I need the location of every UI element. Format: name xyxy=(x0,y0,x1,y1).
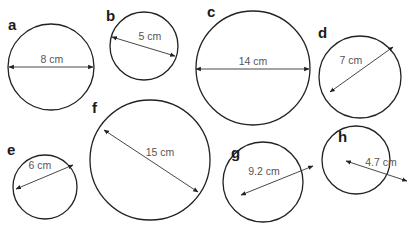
circle-label-d: d xyxy=(318,24,327,41)
diameter-measurement-c: 14 cm xyxy=(239,55,268,67)
diameter-measurement-d: 7 cm xyxy=(340,54,363,66)
diameter-measurement-h: 4.7 cm xyxy=(365,156,397,168)
diameter-measurement-e: 6 cm xyxy=(29,159,52,171)
diameter-measurement-b: 5 cm xyxy=(139,30,162,42)
circle-b xyxy=(110,12,178,80)
circle-label-e: e xyxy=(7,141,15,158)
circle-group-g: g9.2 cm xyxy=(223,142,313,222)
circle-group-a: a8 cm xyxy=(8,16,94,110)
diameter-measurement-a: 8 cm xyxy=(41,53,64,65)
circle-group-e: e6 cm xyxy=(7,141,77,219)
circle-d xyxy=(319,36,401,118)
circle-group-c: c14 cm xyxy=(196,3,310,125)
circle-label-f: f xyxy=(92,99,98,116)
circle-label-b: b xyxy=(106,7,115,24)
circle-label-c: c xyxy=(207,3,215,20)
circle-label-h: h xyxy=(338,128,347,145)
circle-group-f: f15 cm xyxy=(90,99,210,220)
circles-diagram: a8 cmb5 cmc14 cmd7 cme6 cmf15 cmg9.2 cmh… xyxy=(0,0,420,230)
circle-c xyxy=(196,11,310,125)
diameter-measurement-f: 15 cm xyxy=(146,146,175,158)
circle-group-d: d7 cm xyxy=(318,24,401,118)
circle-label-g: g xyxy=(231,144,240,161)
diameter-measurement-g: 9.2 cm xyxy=(248,165,280,177)
diameter-arrow-f xyxy=(104,130,198,192)
circle-group-b: b5 cm xyxy=(106,7,178,80)
circle-group-h: h4.7 cm xyxy=(322,126,407,194)
circle-label-a: a xyxy=(8,16,17,33)
